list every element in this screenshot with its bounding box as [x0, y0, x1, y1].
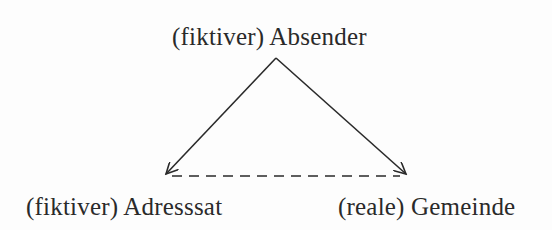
node-adresssat-label: (fiktiver) Adresssat — [26, 194, 222, 219]
node-gemeinde-label: (reale) Gemeinde — [338, 194, 515, 219]
edge-absender-to-gemeinde — [276, 58, 406, 174]
edge-absender-to-adresssat — [166, 58, 276, 174]
